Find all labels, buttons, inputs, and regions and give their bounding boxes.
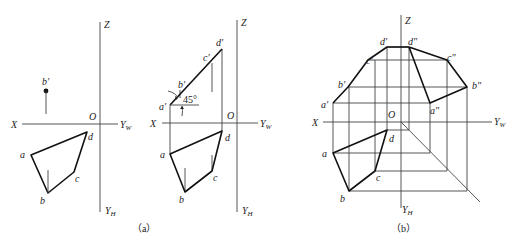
label-b-prime: b′ xyxy=(42,76,50,87)
caption-b: （b） xyxy=(391,223,416,234)
label-d: d xyxy=(225,132,231,143)
z-axis-label: Z xyxy=(241,17,247,28)
panel-a-left: Z X O YW YH b′ a b c d xyxy=(10,19,133,218)
origin-label: O xyxy=(388,109,395,120)
label-c: c xyxy=(376,172,381,183)
label-c-double-prime: c″ xyxy=(447,52,456,63)
label-a-prime: a′ xyxy=(321,99,329,110)
label-b: b xyxy=(40,195,45,206)
x-axis-label: X xyxy=(311,117,319,128)
diagonal-45-line xyxy=(401,122,480,202)
side-view-quadrilateral xyxy=(409,47,467,103)
label-d-prime: d′ xyxy=(216,37,224,48)
projection-figure: Z X O YW YH b′ a b c d Z X O YW YH xyxy=(0,0,515,247)
label-a: a xyxy=(160,149,165,160)
angle-label: 45° xyxy=(183,94,197,105)
caption-a: （a） xyxy=(132,223,156,234)
label-b-double-prime: b″ xyxy=(472,80,482,91)
yh-axis-label: YH xyxy=(242,205,254,218)
label-c: c xyxy=(75,173,80,184)
yh-axis-label: YH xyxy=(402,204,414,217)
origin-label: O xyxy=(89,111,96,122)
label-b: b xyxy=(179,194,184,205)
label-d-prime: d′ xyxy=(380,36,388,47)
label-b-prime: b′ xyxy=(178,79,186,90)
label-d: d xyxy=(88,131,94,142)
label-a-double-prime: a″ xyxy=(430,105,440,116)
label-a: a xyxy=(20,149,25,160)
arrow-lower-icon xyxy=(180,106,184,109)
label-a: a xyxy=(322,148,327,159)
label-d-double-prime: d″ xyxy=(408,36,418,47)
x-axis-label: X xyxy=(149,118,157,129)
label-b: b xyxy=(340,193,345,204)
panel-b: Z X O YW YH a′ b′ c′ d′ d″ xyxy=(311,15,507,234)
z-axis-label: Z xyxy=(104,19,110,30)
yw-axis-label: YW xyxy=(494,116,507,129)
x-axis-label: X xyxy=(10,119,18,130)
label-d: d xyxy=(389,133,395,144)
label-c: c xyxy=(213,172,218,183)
yw-axis-label: YW xyxy=(260,118,273,131)
panel-a-right: Z X O YW YH 45° a′ b′ c′ d′ a b c d （a） xyxy=(132,17,273,234)
yh-axis-label: YH xyxy=(105,205,117,218)
label-b-prime: b′ xyxy=(338,79,346,90)
yw-axis-label: YW xyxy=(120,119,133,132)
label-c-prime: c′ xyxy=(203,52,210,63)
origin-label: O xyxy=(227,110,234,121)
label-c-prime: c′ xyxy=(366,55,373,66)
z-axis-label: Z xyxy=(405,15,411,26)
label-a-prime: a′ xyxy=(159,101,167,112)
